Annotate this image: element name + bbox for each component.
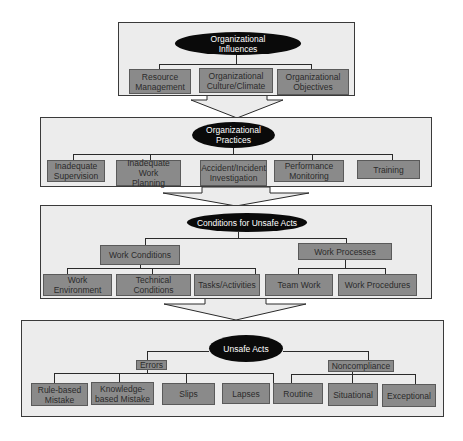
unsafe-acts-node: Unsafe Acts xyxy=(209,335,283,362)
accident-incident-investigation-box: Accident/Incident Investigation xyxy=(200,160,267,186)
connector xyxy=(415,374,416,384)
connector xyxy=(236,55,237,64)
connector xyxy=(298,268,386,269)
section-conditions-for-unsafe-acts: Conditions for Unsafe Acts Work Conditio… xyxy=(40,205,432,299)
lapses-box: Lapses xyxy=(222,383,270,404)
connector xyxy=(273,373,274,383)
connector xyxy=(147,351,148,360)
situational-box: Situational xyxy=(328,383,378,406)
work-conditions-box: Work Conditions xyxy=(100,245,180,265)
connector xyxy=(54,373,55,383)
connector xyxy=(283,351,368,352)
technical-conditions-box: Technical Conditions xyxy=(116,274,191,296)
organizational-influences-node: Organizational Influences xyxy=(175,32,301,55)
connector xyxy=(291,374,292,383)
slips-box: Slips xyxy=(162,383,215,405)
errors-box: Errors xyxy=(136,360,167,370)
connector xyxy=(73,154,393,155)
arrow-practices-to-conditions xyxy=(163,187,309,206)
organizational-culture-climate-box: Organizational Culture/Climate xyxy=(199,68,273,93)
performance-monitoring-box: Performance Monitoring xyxy=(274,160,344,182)
resource-management-box: Resource Management xyxy=(129,69,191,94)
noncompliance-box: Noncompliance xyxy=(328,360,394,372)
connector xyxy=(147,351,209,352)
arrow-conditions-to-unsafe-acts xyxy=(164,298,306,320)
organizational-practices-node: Organizational Practices xyxy=(192,122,275,148)
connector xyxy=(145,238,146,245)
inadequate-work-planning-box: Inadequate Work Planning xyxy=(116,160,181,186)
connector xyxy=(54,373,274,374)
training-box: Training xyxy=(357,160,420,179)
team-work-box: Team Work xyxy=(265,274,333,296)
connector xyxy=(368,351,369,360)
section-unsafe-acts: Unsafe Acts Errors Noncompliance Rule-ba… xyxy=(21,320,444,417)
conditions-for-unsafe-acts-node: Conditions for Unsafe Acts xyxy=(187,213,307,232)
connector xyxy=(145,238,347,239)
work-environment-box: Work Environment xyxy=(43,274,112,296)
knowledge-based-mistake-box: Knowledge- based Mistake xyxy=(91,382,154,405)
connector xyxy=(67,268,256,269)
section-organizational-influences: Organizational Influences Resource Manag… xyxy=(118,22,355,96)
connector xyxy=(159,64,312,65)
connector xyxy=(352,374,353,383)
routine-box: Routine xyxy=(273,383,323,404)
inadequate-supervision-box: Inadequate Supervision xyxy=(47,160,105,182)
rule-based-mistake-box: Rule-based Mistake xyxy=(31,383,88,406)
exceptional-box: Exceptional xyxy=(382,384,436,407)
arrow-influences-to-practices xyxy=(191,95,283,118)
connector xyxy=(186,373,187,383)
organizational-objectives-box: Organizational Objectives xyxy=(277,69,349,95)
tasks-activities-box: Tasks/Activities xyxy=(194,274,260,296)
connector xyxy=(291,374,415,375)
work-procedures-box: Work Procedures xyxy=(338,274,417,296)
section-organizational-practices: Organizational Practices Inadequate Supe… xyxy=(40,117,432,187)
work-processes-box: Work Processes xyxy=(298,243,392,260)
